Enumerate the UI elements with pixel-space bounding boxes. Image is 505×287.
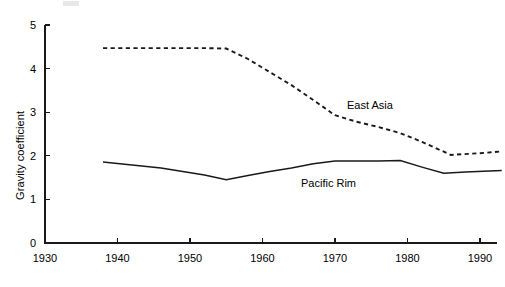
x-tick-label: 1970 (323, 252, 347, 264)
plot-area: 012345 1930194019501960197019801990 (0, 0, 505, 287)
y-tick-label: 3 (30, 106, 36, 118)
x-tick-label: 1960 (250, 252, 274, 264)
axes-group: 012345 1930194019501960197019801990 (30, 19, 497, 264)
x-axis-ticks (118, 238, 481, 243)
y-tick-label: 2 (30, 150, 36, 162)
y-tick-label: 1 (30, 193, 36, 205)
series-line-east-asia (103, 48, 502, 155)
axis-lines (45, 25, 497, 243)
x-tick-label: 1980 (395, 252, 419, 264)
series-group (103, 48, 502, 180)
x-tick-label: 1950 (178, 252, 202, 264)
x-tick-label: 1930 (33, 252, 57, 264)
y-axis-ticks (45, 25, 50, 199)
x-tick-label: 1940 (105, 252, 129, 264)
chart-figure: Gravity coefficient East Asia Pacific Ri… (0, 0, 505, 287)
x-axis-tick-labels: 1930194019501960197019801990 (33, 252, 492, 264)
x-tick-label: 1990 (468, 252, 492, 264)
y-axis-tick-labels: 012345 (30, 19, 36, 249)
y-tick-label: 5 (30, 19, 36, 31)
y-tick-label: 4 (30, 63, 36, 75)
y-tick-label: 0 (30, 237, 36, 249)
series-line-pacific-rim (103, 161, 502, 180)
